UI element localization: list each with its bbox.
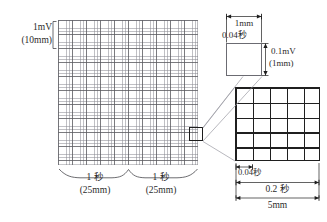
time-label-right-sub: (25mm) — [137, 185, 185, 195]
voltage-bracket — [53, 22, 57, 49]
one-small-square — [226, 43, 262, 76]
dimension-0-1mv — [262, 44, 269, 76]
time-label-left-value: 1 秒 — [74, 172, 116, 182]
small-cell-time-label: 0.04秒 — [238, 168, 262, 177]
leader-lines-big-grid — [203, 87, 235, 161]
single-cell-width-label: 1mm — [226, 19, 262, 29]
block-width-label: 5mm — [236, 200, 319, 210]
time-label-right-value: 1 秒 — [140, 172, 182, 182]
highlighted-grid-cell[interactable] — [189, 127, 203, 141]
block-time-label: 0.2 秒 — [236, 184, 319, 194]
single-cell-time-label: 0.04秒 — [222, 31, 268, 41]
time-label-left-sub: (25mm) — [71, 185, 119, 195]
single-cell-height-sub-label: (1mm) — [269, 59, 294, 69]
five-by-five-block — [235, 87, 320, 161]
single-cell-height-label: 0.1mV — [271, 47, 296, 57]
voltage-label-value: 1mV — [6, 22, 52, 32]
voltage-label-sub: (10mm) — [0, 35, 52, 45]
ecg-grid — [58, 20, 198, 165]
figure-canvas: 1mV (10mm) 1 秒 (25mm) 1 秒 (25mm) 1mm 0.0… — [0, 0, 327, 222]
